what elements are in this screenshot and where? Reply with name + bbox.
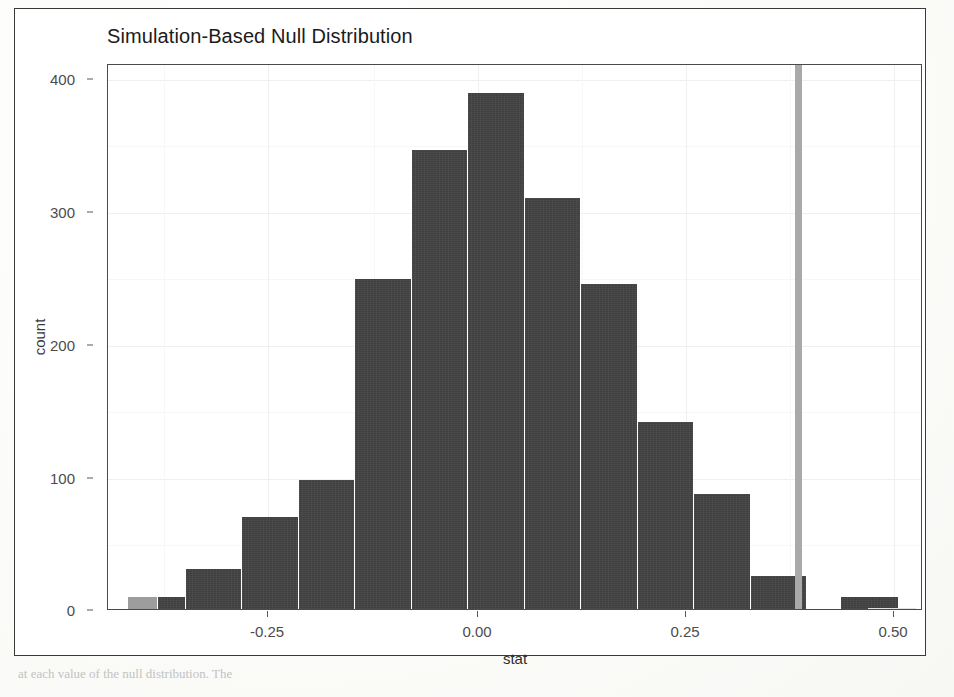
x-tick-mark-050 bbox=[893, 611, 894, 617]
y-tick-mark-300 bbox=[87, 212, 93, 213]
x-tick-label-000: 0.00 bbox=[462, 623, 491, 640]
x-axis-title: stat bbox=[503, 650, 527, 667]
y-tick-label-400: 400 bbox=[23, 71, 75, 88]
scan-speckle bbox=[868, 608, 916, 610]
y-tick-mark-200 bbox=[87, 345, 93, 346]
histogram-bar bbox=[298, 480, 355, 609]
histogram-bar bbox=[467, 93, 524, 609]
histogram-bar bbox=[580, 284, 637, 609]
histogram-bar bbox=[693, 494, 750, 609]
histogram-bar bbox=[524, 198, 581, 609]
plot-panel bbox=[107, 64, 922, 610]
figure-frame: Simulation-Based Null Distribution 400 3… bbox=[14, 8, 926, 656]
x-tick-mark-025 bbox=[685, 611, 686, 617]
page-background: Simulation-Based Null Distribution 400 3… bbox=[0, 0, 954, 697]
y-tick-label-0: 0 bbox=[23, 602, 75, 619]
histogram-bar bbox=[637, 422, 694, 609]
histogram-bar bbox=[185, 569, 242, 609]
page-caption-bleed: at each value of the null distribution. … bbox=[18, 666, 936, 682]
gridline-minor-x-0375 bbox=[790, 65, 791, 609]
x-tick-mark-n025 bbox=[267, 611, 268, 617]
x-tick-mark-000 bbox=[477, 611, 478, 617]
gridline-major-x-050 bbox=[894, 65, 895, 609]
histogram-bar bbox=[157, 597, 185, 609]
y-tick-label-300: 300 bbox=[23, 204, 75, 221]
chart-title: Simulation-Based Null Distribution bbox=[107, 25, 413, 48]
gridline-minor-x-n0375 bbox=[164, 65, 165, 609]
x-tick-label-n025: -0.25 bbox=[250, 623, 284, 640]
y-tick-mark-100 bbox=[87, 478, 93, 479]
y-tick-label-100: 100 bbox=[23, 470, 75, 487]
x-tick-label-050: 0.50 bbox=[878, 623, 907, 640]
histogram-bar bbox=[241, 517, 298, 609]
y-tick-mark-400 bbox=[87, 79, 93, 80]
y-tick-mark-0 bbox=[87, 610, 93, 611]
x-tick-label-025: 0.25 bbox=[670, 623, 699, 640]
y-axis-title: count bbox=[31, 319, 48, 356]
histogram-bar bbox=[354, 279, 411, 609]
observed-statistic-line bbox=[795, 65, 802, 609]
histogram-bar bbox=[411, 150, 468, 609]
